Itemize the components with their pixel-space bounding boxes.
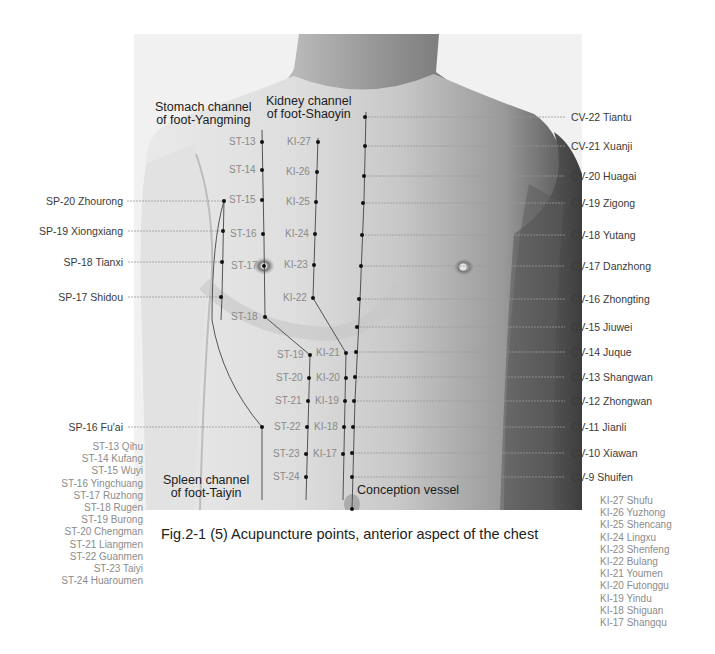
ki-marker-label: KI-18 [314, 421, 338, 433]
ki-legend-item: KI-17 Shangqu [600, 617, 672, 629]
ki-legend-list: KI-27 Shufu KI-26 Yuzhong KI-25 Shencang… [600, 495, 672, 629]
sp-label: SP-16 Fu'ai [68, 421, 123, 433]
cv-label: CV-12 Zhongwan [571, 395, 652, 407]
cv-label: CV-22 Tiantu [571, 111, 632, 123]
figure-caption: Fig.2-1 (5) Acupuncture points, anterior… [161, 526, 538, 542]
ki-marker-label: KI-27 [287, 136, 311, 148]
cv-label: CV-14 Juque [571, 346, 632, 358]
cv-label: CV-9 Shuifen [571, 471, 633, 483]
ki-legend-item: KI-24 Lingxu [600, 532, 672, 544]
st-legend-item: ST-24 Huaroumen [61, 575, 143, 587]
ki-marker-label: KI-19 [315, 395, 339, 407]
st-marker-label: ST-14 [229, 164, 256, 176]
st-legend-item: ST-19 Burong [61, 514, 143, 526]
st-legend-item: ST-16 Yingchuang [61, 478, 143, 490]
st-marker-label: ST-15 [229, 194, 256, 206]
stomach-title-line2: of foot-Yangming [155, 114, 252, 127]
ki-legend-item: KI-23 Shenfeng [600, 544, 672, 556]
st-marker-label: ST-19 [277, 349, 304, 361]
ki-marker-label: KI-21 [316, 347, 340, 359]
ki-marker-label: KI-24 [285, 228, 309, 240]
cv-label: CV-15 Jiuwei [571, 321, 632, 333]
ki-marker-label: KI-22 [283, 292, 307, 304]
st-marker-label: ST-13 [229, 136, 256, 148]
st-legend-item: ST-14 Kufang [61, 453, 143, 465]
st-marker-label: ST-22 [274, 421, 301, 433]
cv-label: CV-20 Huagai [571, 170, 636, 182]
st-legend-item: ST-18 Rugen [61, 502, 143, 514]
ki-legend-item: KI-25 Shencang [600, 519, 672, 531]
kidney-title-line2: of foot-Shaoyin [266, 108, 351, 121]
st-marker-label: ST-18 [231, 311, 258, 323]
st-marker-label: ST-21 [275, 395, 302, 407]
cv-label: CV-11 Jianli [571, 421, 626, 433]
kidney-channel-title: Kidney channel of foot-Shaoyin [266, 95, 351, 121]
spleen-channel-title: Spleen channel of foot-Taiyin [163, 474, 249, 500]
st-legend-list: ST-13 Qihu ST-14 Kufang ST-15 Wuyi ST-16… [61, 441, 143, 587]
ki-legend-item: KI-20 Futonggu [600, 580, 672, 592]
st-marker-label: ST-17 [231, 260, 258, 272]
st-legend-item: ST-15 Wuyi [61, 465, 143, 477]
st-legend-item: ST-17 Ruzhong [61, 490, 143, 502]
sp-label: SP-18 Tianxi [63, 256, 123, 268]
st-legend-item: ST-22 Guanmen [61, 551, 143, 563]
st-legend-item: ST-13 Qihu [61, 441, 143, 453]
ki-marker-label: KI-20 [316, 372, 340, 384]
st-marker-label: ST-23 [273, 448, 300, 460]
ki-legend-item: KI-27 Shufu [600, 495, 672, 507]
cv-label: CV-10 Xiawan [571, 447, 638, 459]
cv-label: CV-18 Yutang [571, 229, 636, 241]
cv-label: CV-13 Shangwan [571, 371, 653, 383]
sp-label: SP-17 Shidou [58, 291, 123, 303]
ki-legend-item: KI-21 Youmen [600, 568, 672, 580]
ki-marker-label: KI-23 [284, 259, 308, 271]
ki-marker-label: KI-17 [313, 448, 337, 460]
ki-marker-label: KI-26 [286, 166, 310, 178]
st-legend-item: ST-21 Liangmen [61, 539, 143, 551]
ki-legend-item: KI-22 Bulang [600, 556, 672, 568]
cv-label: CV-17 Danzhong [571, 260, 651, 272]
ki-legend-item: KI-26 Yuzhong [600, 507, 672, 519]
stomach-channel-title: Stomach channel of foot-Yangming [155, 101, 252, 127]
st-legend-item: ST-23 Taiyi [61, 563, 143, 575]
st-marker-label: ST-20 [276, 372, 303, 384]
ki-marker-label: KI-25 [286, 196, 310, 208]
cv-label: CV-16 Zhongting [571, 293, 650, 305]
st-marker-label: ST-24 [273, 471, 300, 483]
sp-label: SP-19 Xiongxiang [39, 225, 123, 237]
sp-label: SP-20 Zhourong [46, 195, 123, 207]
ki-legend-item: KI-18 Shiguan [600, 605, 672, 617]
conception-vessel-title: Conception vessel [357, 484, 459, 497]
st-marker-label: ST-16 [230, 228, 257, 240]
ki-legend-item: KI-19 Yindu [600, 593, 672, 605]
st-legend-item: ST-20 Chengman [61, 526, 143, 538]
cv-label: CV-19 Zigong [571, 197, 635, 209]
cv-label: CV-21 Xuanji [571, 140, 632, 152]
spleen-title-line2: of foot-Taiyin [163, 487, 249, 500]
